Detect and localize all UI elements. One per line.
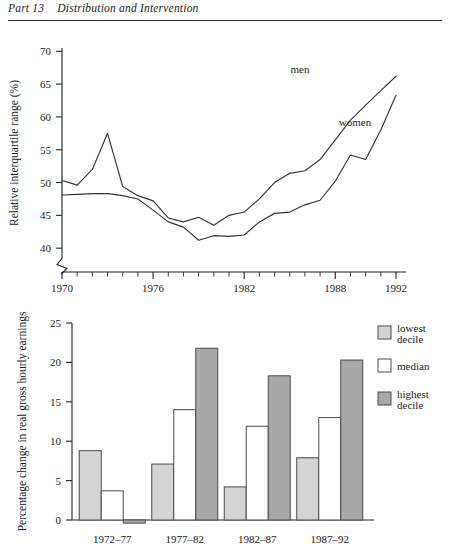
svg-text:70: 70: [40, 45, 52, 57]
svg-text:1982–87: 1982–87: [238, 533, 277, 544]
bar-lowest-decile-0: [79, 451, 101, 520]
bar-lowest-decile-2: [224, 487, 246, 520]
svg-text:median: median: [397, 360, 430, 372]
svg-text:men: men: [291, 63, 310, 75]
bar-chart-svg: 0510152025Percentage change in real gros…: [0, 304, 450, 544]
bar-chart-figure: 0510152025Percentage change in real gros…: [0, 304, 450, 544]
bar-lowest-decile-1: [152, 464, 174, 520]
series-men: [62, 76, 396, 225]
svg-text:45: 45: [40, 209, 52, 221]
svg-text:1992: 1992: [385, 282, 407, 294]
legend-swatch-highest-decile: [378, 392, 391, 405]
bar-median-3: [319, 418, 341, 520]
svg-text:1970: 1970: [51, 282, 74, 294]
bar-median-0: [101, 491, 123, 520]
svg-text:65: 65: [40, 78, 52, 90]
line-chart-svg: 4045505560657019701976198219881992YearRe…: [0, 26, 450, 304]
svg-text:10: 10: [50, 435, 62, 447]
line-chart-figure: 4045505560657019701976198219881992YearRe…: [0, 26, 450, 304]
svg-text:decile: decile: [397, 399, 423, 411]
running-head-title: Distribution and Intervention: [57, 2, 198, 14]
page: Part 13 Distribution and Intervention 40…: [0, 0, 450, 544]
running-head: Part 13 Distribution and Intervention: [8, 2, 442, 14]
legend-swatch-lowest-decile: [378, 326, 391, 339]
header-rule: [8, 20, 442, 21]
svg-text:decile: decile: [397, 333, 423, 345]
svg-text:1982: 1982: [233, 282, 255, 294]
bar-median-1: [174, 410, 196, 520]
svg-text:Relative interquartile range (: Relative interquartile range (%): [8, 80, 21, 226]
bar-lowest-decile-3: [297, 458, 319, 520]
svg-text:Percentage change in real gros: Percentage change in real gross hourly e…: [16, 311, 29, 531]
svg-text:60: 60: [40, 111, 52, 123]
svg-text:1976: 1976: [142, 282, 165, 294]
legend-swatch-median: [378, 359, 391, 372]
svg-text:1988: 1988: [324, 282, 347, 294]
bar-median-2: [246, 426, 268, 520]
running-head-part: Part 13: [8, 2, 44, 14]
svg-text:15: 15: [50, 396, 62, 408]
bar-highest-decile-2: [268, 376, 290, 520]
svg-text:50: 50: [40, 177, 52, 189]
svg-text:5: 5: [56, 475, 62, 487]
svg-text:0: 0: [56, 514, 62, 526]
svg-text:1972–77: 1972–77: [93, 533, 132, 544]
bar-highest-decile-3: [341, 360, 363, 520]
svg-text:1987–92: 1987–92: [311, 533, 350, 544]
svg-text:40: 40: [40, 242, 52, 254]
svg-text:25: 25: [50, 317, 62, 329]
bar-highest-decile-1: [196, 348, 218, 520]
svg-text:20: 20: [50, 356, 62, 368]
svg-text:55: 55: [40, 144, 52, 156]
bar-highest-decile-0: [123, 520, 145, 523]
svg-text:women: women: [339, 116, 372, 128]
svg-text:1977–82: 1977–82: [166, 533, 205, 544]
